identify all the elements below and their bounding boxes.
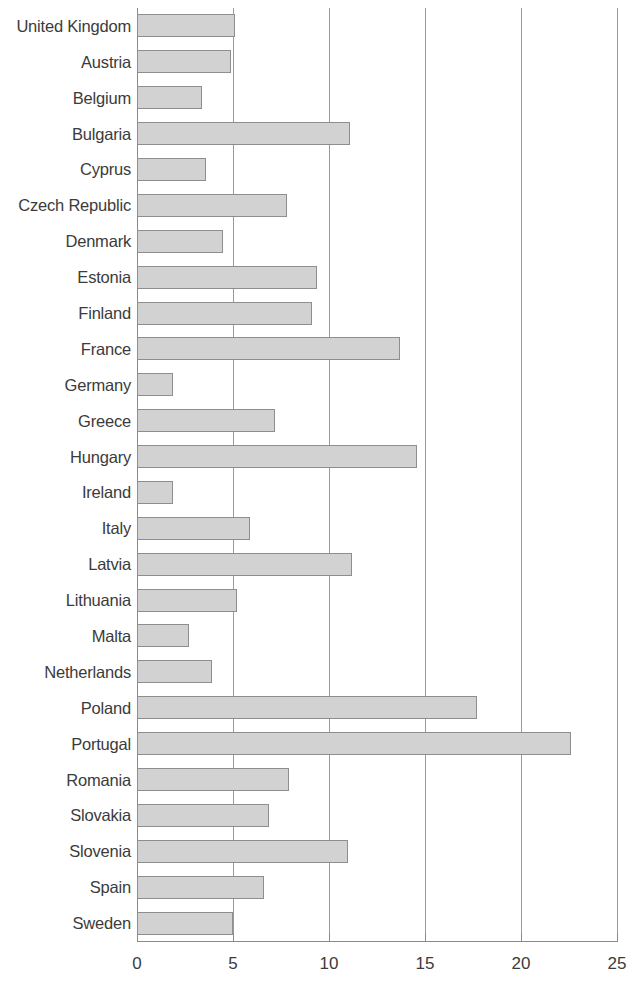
bar bbox=[137, 624, 189, 647]
gridline-15 bbox=[425, 8, 426, 941]
category-label: Estonia bbox=[0, 269, 131, 286]
category-label: United Kingdom bbox=[0, 18, 131, 35]
tick-mark-5 bbox=[233, 933, 234, 941]
category-label: Spain bbox=[0, 879, 131, 896]
tick-mark-15 bbox=[425, 933, 426, 941]
bar bbox=[137, 517, 250, 540]
value-axis-origin-line bbox=[137, 8, 138, 941]
category-label: Portugal bbox=[0, 736, 131, 753]
bar bbox=[137, 876, 264, 899]
category-label: Slovakia bbox=[0, 807, 131, 824]
category-label: France bbox=[0, 341, 131, 358]
category-label: Italy bbox=[0, 520, 131, 537]
bar bbox=[137, 804, 269, 827]
bar bbox=[137, 337, 400, 360]
bar bbox=[137, 732, 571, 755]
bar bbox=[137, 553, 352, 576]
tick-mark-25 bbox=[617, 933, 618, 941]
category-label: Greece bbox=[0, 413, 131, 430]
bar bbox=[137, 14, 235, 37]
tick-label: 25 bbox=[608, 955, 627, 972]
category-label: Ireland bbox=[0, 484, 131, 501]
bar bbox=[137, 302, 312, 325]
gridline-10 bbox=[329, 8, 330, 941]
plot-area bbox=[137, 8, 617, 941]
category-label: Czech Republic bbox=[0, 197, 131, 214]
bar bbox=[137, 122, 350, 145]
category-label: Finland bbox=[0, 305, 131, 322]
category-label: Denmark bbox=[0, 233, 131, 250]
bar bbox=[137, 409, 275, 432]
bar bbox=[137, 445, 417, 468]
bar bbox=[137, 840, 348, 863]
category-axis-labels: United KingdomAustriaBelgiumBulgariaCypr… bbox=[0, 0, 131, 941]
bar bbox=[137, 768, 289, 791]
tick-label: 5 bbox=[228, 955, 237, 972]
tick-mark-0 bbox=[137, 933, 138, 941]
gridline-20 bbox=[521, 8, 522, 941]
category-label: Netherlands bbox=[0, 664, 131, 681]
bar bbox=[137, 86, 202, 109]
tick-label: 20 bbox=[512, 955, 531, 972]
category-label: Malta bbox=[0, 628, 131, 645]
bar bbox=[137, 660, 212, 683]
category-label: Bulgaria bbox=[0, 126, 131, 143]
tick-mark-10 bbox=[329, 933, 330, 941]
bar bbox=[137, 50, 231, 73]
chart-page: United KingdomAustriaBelgiumBulgariaCypr… bbox=[0, 0, 637, 990]
bar bbox=[137, 912, 233, 935]
category-label: Hungary bbox=[0, 449, 131, 466]
tick-mark-20 bbox=[521, 933, 522, 941]
category-label: Slovenia bbox=[0, 843, 131, 860]
category-label: Romania bbox=[0, 772, 131, 789]
gridline-25 bbox=[617, 8, 618, 941]
bar bbox=[137, 481, 173, 504]
bar bbox=[137, 266, 317, 289]
category-label: Belgium bbox=[0, 90, 131, 107]
bar bbox=[137, 696, 477, 719]
category-label: Poland bbox=[0, 700, 131, 717]
category-label: Lithuania bbox=[0, 592, 131, 609]
tick-label: 0 bbox=[132, 955, 141, 972]
category-label: Latvia bbox=[0, 556, 131, 573]
tick-label: 10 bbox=[320, 955, 339, 972]
category-label: Austria bbox=[0, 54, 131, 71]
bar bbox=[137, 194, 287, 217]
bar bbox=[137, 230, 223, 253]
gridline-5 bbox=[233, 8, 234, 941]
bar bbox=[137, 158, 206, 181]
category-label: Cyprus bbox=[0, 161, 131, 178]
bar bbox=[137, 373, 173, 396]
tick-label: 15 bbox=[416, 955, 435, 972]
category-label: Sweden bbox=[0, 915, 131, 932]
category-label: Germany bbox=[0, 377, 131, 394]
bar bbox=[137, 589, 237, 612]
value-axis-ticks: 0510152025 bbox=[137, 941, 618, 953]
